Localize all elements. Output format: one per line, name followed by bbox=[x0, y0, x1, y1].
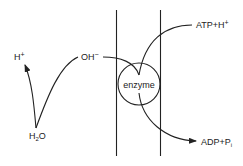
arrow-water-to-proton bbox=[25, 65, 36, 128]
membrane-enzyme-diagram: H+ H2O OH− enzyme ATP+H+ ADP+Pi bbox=[0, 0, 243, 166]
arrow-enzyme-to-adp bbox=[139, 93, 196, 141]
label-enzyme: enzyme bbox=[123, 80, 155, 90]
label-proton-left: H+ bbox=[14, 51, 25, 62]
label-hydroxide: OH− bbox=[81, 51, 99, 62]
label-adp: ADP+Pi bbox=[201, 137, 232, 148]
label-atp: ATP+H+ bbox=[196, 19, 229, 30]
curve-atp-to-enzyme bbox=[139, 25, 192, 75]
curve-water-to-hydroxide bbox=[36, 57, 78, 128]
label-water: H2O bbox=[29, 131, 46, 142]
